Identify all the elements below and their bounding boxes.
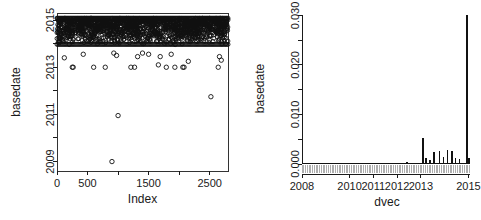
scatter-panel: 2009201120132015050015002500Indexbasedat… (0, 0, 240, 220)
outlier-point (91, 65, 95, 69)
outlier-point (186, 59, 190, 63)
outlier-points (62, 51, 223, 164)
x-tick-label: 2015 (456, 180, 480, 192)
x-axis-title: Index (128, 192, 157, 206)
rug (302, 165, 470, 173)
y-tick-label: 0.020 (289, 51, 301, 79)
y-tick-label: 2013 (44, 55, 56, 79)
outlier-point (158, 54, 162, 58)
x-tick-label: 2008 (290, 180, 314, 192)
outlier-point (173, 65, 177, 69)
y-tick-label: 0.010 (289, 101, 301, 129)
outlier-point (209, 95, 213, 99)
density-plot-svg: 0.0000.0100.0200.03020082010201120122013… (240, 0, 481, 220)
x-tick-label: 2012 (385, 180, 409, 192)
spikes (407, 15, 469, 164)
y-axis-title: basedate (9, 67, 23, 117)
outlier-point (146, 52, 150, 56)
outlier-point (140, 51, 144, 55)
outlier-point (169, 52, 173, 56)
x-tick-label: 0 (54, 177, 60, 189)
outlier-point (156, 63, 160, 67)
outlier-point (103, 65, 107, 69)
dense-point-band (55, 16, 230, 46)
y-tick-label: 2009 (44, 149, 56, 173)
scatter-plot-svg: 2009201120132015050015002500Indexbasedat… (0, 0, 240, 220)
outlier-point (110, 159, 114, 163)
outlier-point (216, 65, 220, 69)
x-tick-label: 1500 (136, 177, 160, 189)
x-tick-label: 500 (78, 177, 96, 189)
scatter-group: 2009201120132015050015002500Indexbasedat… (9, 8, 230, 206)
x-tick-label: 2013 (409, 180, 433, 192)
y-tick-label: 0.000 (289, 150, 301, 178)
x-tick-label: 2010 (337, 180, 361, 192)
figure-root: 2009201120132015050015002500Indexbasedat… (0, 0, 481, 220)
y-tick-label: 2011 (44, 103, 56, 127)
x-tick-label: 2500 (197, 177, 221, 189)
outlier-point (116, 113, 120, 117)
x-axis-ticks: 050015002500 (54, 171, 222, 189)
x-axis: 200820102011201220132015 (290, 174, 481, 192)
y-axis: 0.0000.0100.0200.030 (289, 2, 302, 178)
outlier-point (135, 54, 139, 58)
outlier-point (81, 52, 85, 56)
outlier-point (164, 65, 168, 69)
outlier-point (219, 58, 223, 62)
y-tick-label: 2015 (44, 8, 56, 32)
outlier-point (62, 56, 66, 60)
density-panel: 0.0000.0100.0200.03020082010201120122013… (240, 0, 481, 220)
y-tick-label: 0.030 (289, 2, 301, 30)
x-axis-title: dvec (374, 195, 399, 209)
x-tick-label: 2011 (362, 180, 386, 192)
y-axis-title: basedate (253, 63, 267, 113)
density-group: 0.0000.0100.0200.03020082010201120122013… (253, 2, 481, 209)
